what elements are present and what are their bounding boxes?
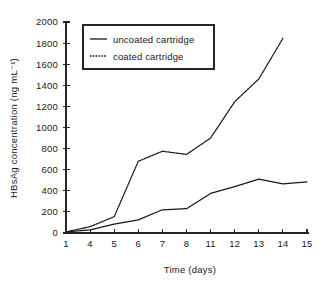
y-tick-label: 1000	[36, 122, 58, 133]
x-tick-label: 13	[253, 238, 264, 249]
x-tick-label: 7	[160, 238, 165, 249]
y-axis-title: HBsAg concentration (ng mL⁻¹)	[8, 58, 19, 198]
y-tick-label: 600	[42, 164, 58, 175]
y-tick-label: 1800	[36, 38, 58, 49]
x-tick-label: 11	[205, 238, 215, 249]
legend-label-coated: coated cartridge	[113, 51, 184, 62]
y-tick-label: 1200	[36, 101, 58, 112]
x-tick-label: 14	[277, 238, 288, 249]
x-axis-ticks: 1456781112131415	[63, 229, 312, 250]
y-axis-ticks: 0200400600800100012001400160018002000	[36, 16, 69, 238]
y-tick-label: 1600	[36, 59, 58, 70]
x-tick-label: 1	[63, 238, 68, 249]
x-tick-label: 8	[184, 238, 189, 249]
x-tick-label: 15	[302, 238, 313, 249]
series-line-uncoated	[66, 179, 307, 232]
chart-figure: HBsAg concentration (ng mL⁻¹) Time (days…	[0, 0, 325, 285]
y-tick-label: 200	[42, 206, 58, 217]
x-tick-label: 12	[229, 238, 240, 249]
x-tick-label: 4	[87, 238, 92, 249]
y-axis-title-label: HBsAg concentration (ng mL⁻¹)	[8, 58, 19, 198]
y-tick-label: 2000	[36, 16, 58, 27]
line-chart: HBsAg concentration (ng mL⁻¹) Time (days…	[0, 0, 325, 285]
legend-label-uncoated: uncoated cartridge	[113, 34, 194, 45]
x-axis-title-label: Time (days)	[164, 264, 217, 275]
chart-legend: uncoated cartridge coated cartridge	[83, 25, 214, 69]
x-axis-title: Time (days)	[164, 264, 217, 275]
x-tick-label: 6	[136, 238, 141, 249]
x-tick-label: 5	[111, 238, 116, 249]
y-tick-label: 1400	[36, 80, 58, 91]
y-tick-label: 0	[53, 227, 58, 238]
legend-box	[83, 25, 214, 69]
y-tick-label: 400	[42, 185, 58, 196]
y-tick-label: 800	[42, 143, 58, 154]
